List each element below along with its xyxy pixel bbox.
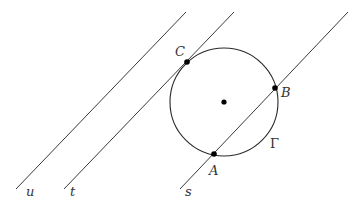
circle-center-point (221, 99, 226, 104)
line-u (16, 12, 186, 189)
parallel-lines (16, 12, 348, 189)
label-b: B (280, 85, 291, 100)
intersection-points (184, 59, 278, 157)
point-c (184, 59, 190, 65)
labels: u t s C B A Γ (26, 44, 291, 199)
label-t: t (70, 184, 76, 199)
geometry-diagram: u t s C B A Γ (0, 0, 349, 204)
label-gamma: Γ (270, 136, 279, 151)
point-b (272, 85, 278, 91)
label-s: s (185, 184, 192, 199)
label-c: C (175, 44, 185, 59)
label-u: u (26, 184, 34, 199)
label-a: A (208, 163, 218, 178)
point-a (211, 151, 217, 157)
line-s (180, 12, 348, 189)
